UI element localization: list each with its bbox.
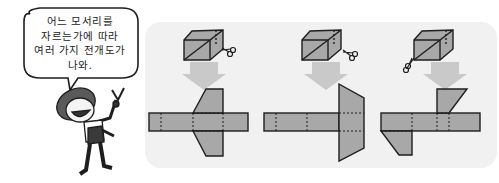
speech-line-4: 나와.: [26, 58, 134, 73]
speech-line-3: 여러 가지 전개도가: [26, 43, 134, 58]
cartoon-boy-illustration: [52, 82, 124, 174]
speech-bubble-text: 어느 모서리를 자르는가에 따라 여러 가지 전개도가 나와.: [26, 14, 134, 72]
speech-line-1: 어느 모서리를: [26, 14, 134, 29]
speech-line-2: 자르는가에 따라: [26, 29, 134, 44]
diagram-stage: 어느 모서리를 자르는가에 따라 여러 가지 전개도가 나와.: [0, 0, 499, 183]
